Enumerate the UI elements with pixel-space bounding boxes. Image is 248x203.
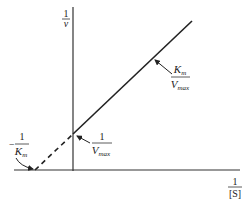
svg-text:Km: Km xyxy=(14,145,27,159)
svg-text:1: 1 xyxy=(100,131,105,142)
svg-text:Vmax: Vmax xyxy=(92,144,111,158)
x-intercept-arrow-icon xyxy=(16,158,33,169)
y-intercept-label: 1 Vmax xyxy=(77,131,112,158)
svg-text:v: v xyxy=(64,18,69,29)
slope-arrow-icon xyxy=(155,60,172,74)
lineweaver-burk-plot: 1 v 1 [S] Km Vmax 1 Vmax − 1 Km xyxy=(0,0,248,203)
y-intercept-arrow-icon xyxy=(77,136,90,143)
x-intercept-label: − 1 Km xyxy=(9,131,33,169)
svg-text:1: 1 xyxy=(20,131,25,142)
y-axis-label: 1 v xyxy=(62,8,70,29)
svg-text:1: 1 xyxy=(233,176,238,187)
extrapolated-line xyxy=(35,134,73,170)
svg-text:Vmax: Vmax xyxy=(171,78,190,92)
x-axis-label: 1 [S] xyxy=(228,176,242,199)
svg-text:[S]: [S] xyxy=(229,188,241,199)
slope-label: Km Vmax xyxy=(155,60,190,92)
svg-text:Km: Km xyxy=(173,63,186,77)
